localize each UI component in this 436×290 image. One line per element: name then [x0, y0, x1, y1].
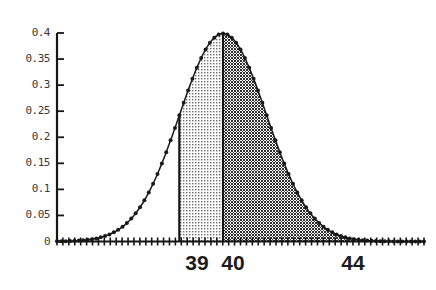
- x-axis-label-44: 44: [329, 252, 377, 273]
- y-axis-tick-label: 0.4: [0, 27, 50, 38]
- y-axis-tick-label: 0.05: [0, 209, 50, 220]
- y-axis-tick-label: 0.15: [0, 157, 50, 168]
- normal-distribution-chart: 00.050.10.150.20.250.30.350.4 39 40 44: [0, 0, 436, 290]
- y-axis-tick-label: 0.2: [0, 131, 50, 142]
- y-axis-tick-label: 0.25: [0, 105, 50, 116]
- y-axis-tick-labels: 00.050.10.150.20.250.30.350.4: [0, 0, 436, 290]
- y-axis-tick-label: 0: [0, 236, 50, 247]
- x-axis-label-40: 40: [209, 252, 257, 273]
- y-axis-tick-label: 0.35: [0, 53, 50, 64]
- y-axis-tick-label: 0.3: [0, 79, 50, 90]
- y-axis-tick-label: 0.1: [0, 183, 50, 194]
